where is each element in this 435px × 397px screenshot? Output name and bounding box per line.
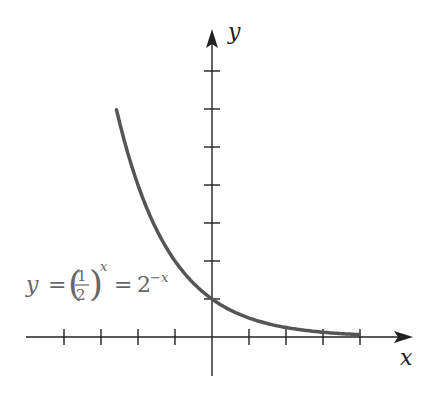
eq-equals-2: =: [114, 272, 132, 297]
eq-denominator: 2: [76, 286, 86, 304]
chart-root: y x y = ( 1 2 ) x = 2 −x: [0, 0, 435, 397]
eq-exponent: x: [100, 259, 108, 274]
eq-neg-exponent: −x: [150, 270, 169, 285]
plot-area: y x y = ( 1 2 ) x = 2 −x: [0, 0, 435, 397]
eq-y: y: [25, 272, 39, 297]
x-axis-label: x: [400, 345, 413, 370]
eq-equals: =: [48, 272, 66, 297]
y-axis-label: y: [227, 19, 241, 44]
eq-numerator: 1: [77, 267, 87, 285]
axes: [26, 29, 413, 376]
exponential-curve: [117, 110, 359, 335]
eq-base: 2: [137, 272, 151, 297]
equation-label: y = ( 1 2 ) x = 2 −x: [25, 259, 169, 304]
